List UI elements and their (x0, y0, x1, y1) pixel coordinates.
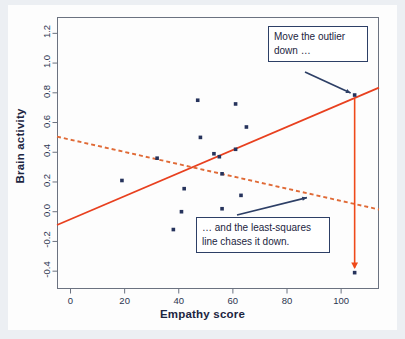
x-tick-label: 20 (105, 295, 145, 306)
x-axis-title: Empathy score (0, 308, 405, 320)
y-axis-title: Brain activity (14, 86, 26, 206)
axis-ticks (53, 33, 342, 293)
outlier-move-arrow (351, 99, 358, 269)
x-tick-label: 80 (267, 295, 307, 306)
annotation-least-squares: … and the least-squares line chases it d… (196, 217, 330, 253)
y-tick-label: 1.2 (41, 12, 52, 52)
figure-canvas: -0.4-0.20.00.20.40.60.81.01.2 0204060801… (0, 0, 405, 339)
annotation-move-outlier-line1: Move the outlier (274, 30, 362, 44)
x-tick-label: 40 (159, 295, 199, 306)
x-tick-label: 0 (51, 295, 91, 306)
x-tick-label: 100 (321, 295, 361, 306)
annotation-least-squares-line2: line chases it down. (202, 235, 324, 249)
annotation-move-outlier: Move the outlier down … (268, 26, 368, 62)
annotation-least-squares-line1: … and the least-squares (202, 221, 324, 235)
annotation-move-outlier-line2: down … (274, 44, 362, 58)
x-tick-label: 60 (213, 295, 253, 306)
annotation-leader-lines (237, 72, 351, 215)
